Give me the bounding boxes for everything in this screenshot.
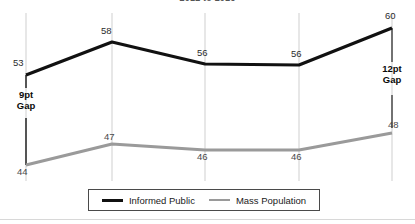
left-gap-annotation-line1: 9pt (4, 90, 48, 101)
data-label-informed-5: 60 (385, 11, 396, 21)
data-label-informed-2: 58 (101, 26, 112, 36)
series-line-informed-public (26, 28, 392, 75)
legend-label-informed-public: Informed Public (129, 195, 195, 206)
legend-item-informed-public: Informed Public (102, 195, 195, 206)
legend-item-mass-population: Mass Population (209, 195, 306, 206)
right-gap-annotation-line1: 12pt (370, 64, 414, 75)
series-line-mass-population (26, 133, 392, 165)
legend-label-mass-population: Mass Population (236, 195, 306, 206)
data-label-informed-3: 56 (197, 48, 208, 58)
data-label-informed-4: 56 (291, 49, 302, 59)
data-label-mass-2: 47 (104, 132, 115, 142)
left-gap-annotation-line2: Gap (4, 101, 48, 112)
data-label-mass-5: 48 (388, 120, 399, 130)
chart-legend: Informed Public Mass Population (88, 189, 320, 211)
data-label-mass-3: 46 (197, 152, 208, 162)
data-label-mass-1: 44 (17, 167, 28, 177)
left-gap-annotation: 9pt Gap (4, 90, 48, 111)
data-label-mass-4: 46 (291, 152, 302, 162)
gridlines (26, 13, 392, 181)
chart-screenshot: 2012 to 2016 53 58 56 56 60 44 47 46 46 … (0, 0, 415, 224)
data-label-informed-1: 53 (13, 58, 24, 68)
right-gap-annotation-line2: Gap (370, 75, 414, 86)
legend-swatch-informed-public-icon (102, 199, 123, 202)
bottom-divider (0, 219, 415, 220)
legend-swatch-mass-population-icon (209, 199, 230, 201)
right-gap-annotation: 12pt Gap (370, 64, 414, 85)
